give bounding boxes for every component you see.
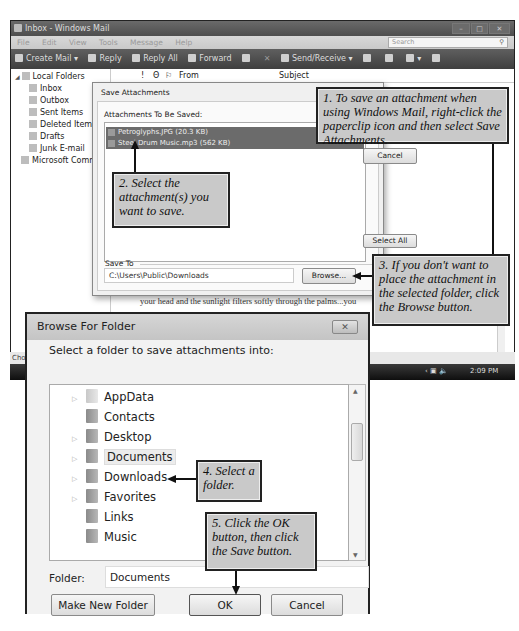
make-new-folder-button[interactable]: Make New Folder [51,594,155,616]
callout-step-1: 1. To save an attachment when using Wind… [316,87,509,144]
arrow-head-left-icon [352,272,361,280]
message-list-header: ! Θ ⚐ From Subject [111,69,515,83]
new-mail-icon [15,54,23,62]
junk-icon [29,144,37,152]
col-subject[interactable]: Subject [279,69,309,83]
outbox-icon [29,96,37,104]
calendar-icon [385,54,393,62]
save-to-divider [140,264,380,265]
cancel-button[interactable]: Cancel [363,148,417,164]
col-priority[interactable]: ! [141,69,144,83]
message-body-snippet: your head and the sunlight filters softl… [140,296,356,306]
menu-help[interactable]: Help [175,38,192,47]
menu-message[interactable]: Message [130,38,163,47]
delete-icon: ✕ [264,54,271,63]
contacts-button[interactable] [363,49,374,69]
calendar-button[interactable] [385,49,396,69]
forward-icon [188,54,196,62]
reply-all-button[interactable]: Reply All [132,49,178,69]
find-icon [406,54,414,62]
create-mail-button[interactable]: Create Mail ▾ [15,49,78,69]
callout-1-arrow [492,144,494,262]
callout-step-4: 4. Select a folder. [196,460,262,502]
send-receive-icon [281,54,289,62]
callout-step-2: 2. Select the attachment(s) you want to … [112,172,230,228]
ok-button[interactable]: OK [189,594,261,616]
maximize-button[interactable]: □ [471,23,488,34]
toolbar: Create Mail ▾ Reply Reply All Forward ✕ … [11,49,514,69]
tree-item-links[interactable]: Links [72,507,134,527]
menu-edit[interactable]: Edit [42,38,57,47]
scroll-up-icon[interactable]: ▲ [353,387,358,394]
scroll-down-icon[interactable]: ▼ [353,551,358,558]
attachments-list-label: Attachments To Be Saved: [104,110,202,119]
callout-step-3: 3. If you don't want to place the attach… [372,254,510,326]
layout-icon [432,54,440,62]
folder-sent-items[interactable]: Sent Items [29,108,83,117]
layout-button[interactable] [432,49,443,69]
title-bar: Inbox - Windows Mail [11,21,514,36]
forward-button[interactable]: Forward [188,49,231,69]
folder-inbox[interactable]: Inbox [29,84,62,93]
select-all-button[interactable]: Select All [363,234,417,248]
arrow-head-left-icon [167,475,176,483]
reply-button[interactable]: Reply [88,49,121,69]
folder-outbox[interactable]: Outbox [29,96,69,105]
menu-view[interactable]: View [69,38,87,47]
col-from[interactable]: From [179,69,199,83]
downloads-folder-icon [86,469,98,483]
contacts-folder-icon [86,409,98,423]
print-button[interactable] [242,49,253,69]
send-receive-button[interactable]: Send/Receive ▾ [281,49,353,69]
expand-arrow-icon[interactable]: ▷ [72,449,82,469]
documents-folder-icon [86,449,98,463]
menu-file[interactable]: File [17,38,30,47]
print-icon [242,54,250,62]
expand-arrow-icon[interactable]: ▷ [72,469,82,489]
menu-tools[interactable]: Tools [99,38,117,47]
expand-arrow-icon[interactable]: ▷ [72,489,82,509]
tree-scrollbar[interactable]: ▲ ▼ [349,384,366,561]
cancel-button[interactable]: Cancel [271,594,343,616]
close-window-button[interactable]: ✕ [489,23,510,34]
minimize-button[interactable]: – [452,23,470,34]
audio-file-icon [108,140,115,147]
search-input[interactable]: Search ⚲ [388,37,508,48]
dialog-title: Browse For Folder [27,314,368,340]
tree-item-favorites[interactable]: ▷Favorites [72,487,156,507]
tree-item-music[interactable]: Music [72,527,137,547]
tree-item-contacts[interactable]: Contacts [72,407,155,427]
folder-local-folders[interactable]: ◢ Local Folders [15,72,85,81]
folder-deleted-items[interactable]: Deleted Items [29,120,96,129]
arrow-head-down-icon [232,586,240,595]
tree-item-downloads[interactable]: ▷Downloads [72,467,167,487]
folder-icon [86,389,98,403]
folder-drafts[interactable]: Drafts [29,132,64,141]
taskbar-clock: 2:09 PM [470,367,498,375]
scrollbar-thumb[interactable] [351,423,363,461]
mail-app-icon [14,24,22,32]
tree-item-appdata[interactable]: ▷AppData [72,387,154,407]
find-button[interactable]: ▾ [406,49,421,69]
tree-item-documents[interactable]: ▷Documents [72,447,176,467]
callout-step-5: 5. Click the OK button, then click the S… [205,512,317,571]
browse-button[interactable]: Browse... [302,268,356,284]
image-file-icon [108,129,115,136]
reply-all-icon [132,54,140,62]
favorites-folder-icon [86,489,98,503]
close-dialog-button[interactable]: ✕ [332,320,358,334]
arrow-head-up-icon [131,140,139,149]
col-attachment[interactable]: Θ [153,69,159,83]
delete-button[interactable]: ✕ [264,49,271,69]
expand-arrow-icon[interactable]: ▷ [72,429,82,449]
col-flag[interactable]: ⚐ [165,69,172,83]
callout-3-arrow [360,275,372,277]
save-to-path-field[interactable]: C:\Users\Public\Downloads [104,268,294,283]
callout-4-arrow [176,478,196,480]
browse-prompt: Select a folder to save attachments into… [49,344,274,357]
expand-arrow-icon[interactable]: ▷ [72,389,82,409]
tree-item-desktop[interactable]: ▷Desktop [72,427,151,447]
communities-icon [21,156,29,164]
folder-junk-email[interactable]: Junk E-mail [29,144,85,153]
folder-icon [22,72,30,80]
